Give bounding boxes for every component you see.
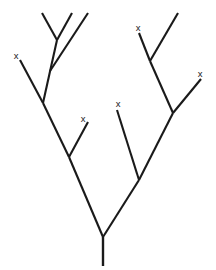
left-main-to-left-upper — [43, 103, 69, 157]
left-fork-to-tip-1 — [42, 13, 57, 40]
tip-marker-right-upper: x — [136, 22, 141, 33]
tree-diagram-canvas: xxxxx — [0, 0, 216, 270]
branch-group — [20, 13, 201, 237]
root-to-left-main — [69, 157, 103, 237]
right-upper-to-tip-e — [173, 79, 201, 113]
right-main-to-right-upper — [139, 113, 173, 180]
right-fork-to-tip-b — [139, 33, 150, 61]
tree-diagram-svg: xxxxx — [0, 0, 216, 270]
tip-marker-left-outer: x — [14, 50, 19, 61]
right-main-to-tip-d — [117, 110, 139, 180]
root-to-right-main — [103, 180, 139, 237]
left-fork-to-tip-2 — [57, 13, 72, 40]
left-upper-to-left-fork — [43, 40, 57, 103]
right-upper-to-right-fork — [150, 61, 173, 113]
right-fork-to-tip-4 — [150, 13, 178, 61]
tip-marker-right-outer: x — [198, 68, 203, 79]
tip-marker-group: xxxxx — [14, 22, 203, 124]
left-upper-to-tip-a — [20, 60, 43, 103]
tip-marker-left-inner: x — [81, 113, 86, 124]
tip-marker-center: x — [116, 98, 121, 109]
left-main-to-tip-c — [69, 122, 88, 157]
